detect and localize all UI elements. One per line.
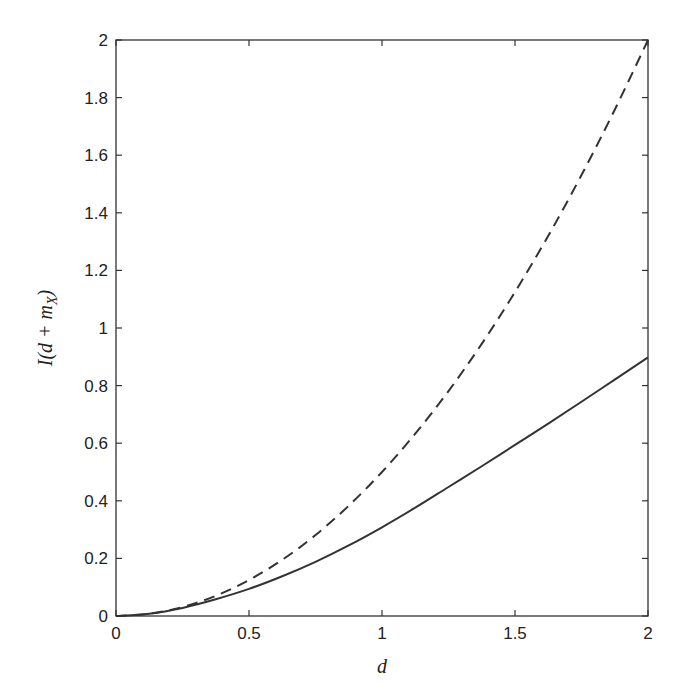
dashed-series-line bbox=[116, 40, 648, 616]
x-tick-label: 1.5 bbox=[503, 624, 527, 643]
y-tick-label: 1.2 bbox=[84, 261, 108, 280]
y-axis-label: I(d + mX) bbox=[34, 289, 60, 367]
axis-tick-labels: 00.511.5200.20.40.60.811.21.41.61.82 bbox=[84, 31, 652, 643]
solid-series-line bbox=[116, 357, 648, 616]
x-tick-label: 0.5 bbox=[237, 624, 261, 643]
y-tick-label: 0.2 bbox=[84, 549, 108, 568]
y-tick-label: 0.8 bbox=[84, 377, 108, 396]
x-axis-label: d bbox=[377, 655, 388, 677]
y-tick-label: 0 bbox=[99, 607, 108, 626]
plot-frame bbox=[116, 40, 648, 616]
y-tick-label: 1.6 bbox=[84, 146, 108, 165]
y-tick-label: 2 bbox=[99, 31, 108, 50]
x-tick-label: 2 bbox=[643, 624, 652, 643]
x-tick-label: 0 bbox=[111, 624, 120, 643]
axis-ticks bbox=[116, 40, 648, 616]
y-tick-label: 1.4 bbox=[84, 204, 108, 223]
y-tick-label: 0.4 bbox=[84, 492, 108, 511]
line-chart: 00.511.5200.20.40.60.811.21.41.61.82 d I… bbox=[0, 0, 686, 699]
y-tick-label: 1.8 bbox=[84, 89, 108, 108]
y-tick-label: 1 bbox=[99, 319, 108, 338]
x-tick-label: 1 bbox=[377, 624, 386, 643]
y-tick-label: 0.6 bbox=[84, 434, 108, 453]
